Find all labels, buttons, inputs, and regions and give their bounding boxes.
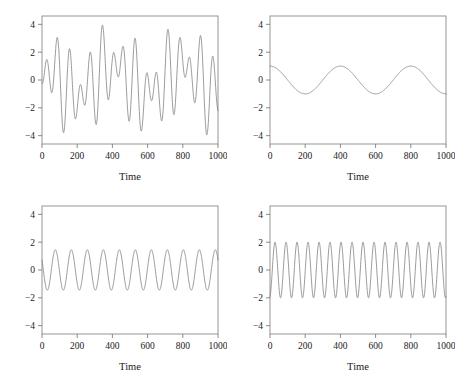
x-tick-label: 800 [176,341,191,351]
x-tick-label: 600 [368,341,383,351]
x-tick-label: 800 [404,341,419,351]
x-tick-label: 400 [333,151,348,161]
plot-frame [42,16,218,144]
y-tick-label: −2 [253,293,263,303]
chart-svg: −4−202402004006008001000Time [228,0,455,190]
y-tick-label: 4 [30,20,35,30]
x-tick-label: 1000 [437,341,455,351]
chart-panel-top-left: −4−202402004006008001000Time [0,0,227,190]
y-tick-label: 2 [258,48,263,58]
y-tick-label: −4 [253,321,263,331]
data-series-line [270,242,446,298]
data-series-line [42,25,218,135]
y-tick-label: 2 [30,238,35,248]
x-tick-label: 1000 [437,151,455,161]
x-tick-label: 0 [268,151,273,161]
chart-panel-bottom-right: −4−202402004006008001000Time [228,190,455,379]
x-axis-title: Time [347,361,369,372]
chart-svg: −4−202402004006008001000Time [228,190,455,379]
x-axis-title: Time [119,171,141,182]
figure-panel-grid: −4−202402004006008001000Time −4−20240200… [0,0,455,379]
x-tick-label: 0 [268,341,273,351]
chart-svg: −4−202402004006008001000Time [0,190,227,379]
y-tick-label: 4 [258,20,263,30]
chart-panel-top-right: −4−202402004006008001000Time [228,0,455,190]
y-tick-label: −4 [25,131,35,141]
y-tick-label: 0 [30,265,35,275]
data-series-line [42,250,218,290]
x-tick-label: 200 [70,341,85,351]
y-tick-label: −4 [25,321,35,331]
y-tick-label: −2 [25,103,35,113]
plot-frame [270,206,446,334]
y-tick-label: 4 [258,210,263,220]
x-tick-label: 800 [404,151,419,161]
x-tick-label: 0 [40,341,45,351]
y-tick-label: 0 [30,75,35,85]
x-tick-label: 200 [298,341,313,351]
y-tick-label: −2 [25,293,35,303]
plot-frame [42,206,218,334]
y-tick-label: 2 [30,48,35,58]
y-tick-label: 0 [258,265,263,275]
x-tick-label: 400 [105,341,120,351]
x-tick-label: 0 [40,151,45,161]
x-tick-label: 400 [333,341,348,351]
x-tick-label: 200 [298,151,313,161]
x-tick-label: 1000 [209,341,228,351]
x-tick-label: 200 [70,151,85,161]
y-tick-label: −2 [253,103,263,113]
x-axis-title: Time [347,171,369,182]
chart-panel-bottom-left: −4−202402004006008001000Time [0,190,227,379]
x-tick-label: 600 [140,151,155,161]
x-tick-label: 600 [140,341,155,351]
y-tick-label: −4 [253,131,263,141]
y-tick-label: 0 [258,75,263,85]
y-tick-label: 4 [30,210,35,220]
data-series-line [270,66,446,94]
y-tick-label: 2 [258,238,263,248]
x-tick-label: 800 [176,151,191,161]
x-tick-label: 600 [368,151,383,161]
chart-svg: −4−202402004006008001000Time [0,0,227,190]
x-axis-title: Time [119,361,141,372]
x-tick-label: 400 [105,151,120,161]
x-tick-label: 1000 [209,151,228,161]
